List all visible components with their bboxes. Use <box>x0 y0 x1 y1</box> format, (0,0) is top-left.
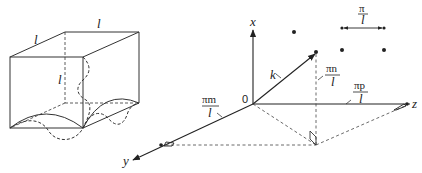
cube-hidden-edges <box>10 32 139 128</box>
cube-edge-label-front: l <box>34 32 38 47</box>
z-component-numerator: πp <box>354 79 366 91</box>
z-component-denominator: l <box>359 91 363 106</box>
y-axis <box>133 104 253 160</box>
x-component-leader <box>318 76 323 80</box>
z-axis-label: z <box>411 96 417 111</box>
y-component-leader <box>217 113 222 117</box>
cube-box <box>10 32 139 140</box>
x-axis-label: x <box>249 14 256 29</box>
cube-edge-label-height: l <box>58 72 62 87</box>
origin-label: 0 <box>242 93 248 105</box>
x-component-denominator: l <box>331 74 335 89</box>
y-component-point <box>159 143 163 147</box>
z-component-point <box>405 102 409 106</box>
k-space-axes <box>133 30 410 160</box>
wave-dashed <box>10 57 139 140</box>
cube-right-edges <box>83 32 139 128</box>
k-vector <box>253 54 315 104</box>
y-axis-label: y <box>121 153 129 168</box>
cube-top-face <box>10 32 139 57</box>
k-label-leader <box>276 74 281 78</box>
axis-tick-markers <box>164 104 406 146</box>
z-component-leader <box>346 100 351 104</box>
cube-front-face <box>10 57 83 128</box>
y-component-denominator: l <box>208 105 212 120</box>
x-component-numerator: πn <box>326 62 338 74</box>
k-vector-label: k <box>270 67 276 82</box>
y-component-numerator: πm <box>202 93 217 105</box>
projection-lines <box>160 54 405 145</box>
lattice-points <box>292 30 386 54</box>
diagram-canvas: l l l π l x y z 0 k <box>0 0 422 173</box>
wave-front-solid <box>10 114 83 128</box>
spacing-denominator: l <box>361 12 365 27</box>
cube-edge-label-top: l <box>97 16 101 31</box>
